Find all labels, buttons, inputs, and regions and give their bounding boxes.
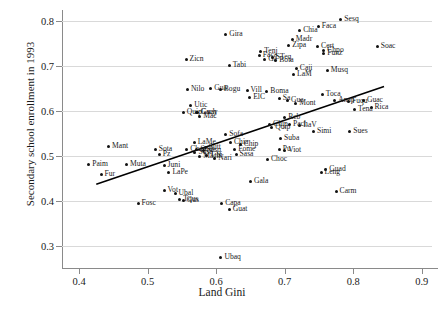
data-point-label: Mant [112, 142, 128, 150]
data-point [292, 73, 295, 76]
data-point-label: Chip [244, 140, 259, 148]
x-tick [79, 268, 80, 274]
data-point [316, 45, 319, 48]
data-point [317, 25, 320, 28]
data-point-label: Sues [353, 127, 367, 135]
scatter-plot-figure: Secondary school enrollment in 1993 Land… [0, 0, 444, 309]
data-point [326, 69, 329, 72]
data-point-label: Sutt [209, 143, 221, 151]
data-point [335, 190, 338, 193]
x-tick [353, 268, 354, 274]
data-point-label: Viot [288, 146, 301, 154]
data-point-label: ElC [253, 93, 265, 101]
data-point-label: Nari [218, 154, 232, 162]
x-tick-label: 0.8 [333, 276, 373, 287]
x-tick-label: 0.5 [128, 276, 168, 287]
data-point-label: Muta [130, 160, 146, 168]
data-point [278, 148, 281, 151]
data-point-label: Tena [358, 105, 373, 113]
data-point [185, 58, 188, 61]
x-tick-label: 0.9 [402, 276, 442, 287]
data-point [202, 149, 205, 152]
data-point [204, 146, 207, 149]
x-tick [285, 268, 286, 274]
data-point-label: Madr [296, 35, 312, 43]
data-point [100, 173, 103, 176]
data-point-label: Nilo [191, 85, 205, 93]
data-point-label: Gua [214, 84, 227, 92]
data-point-label: Mont [299, 99, 315, 107]
data-point [322, 52, 325, 55]
data-point-label: Suba [284, 134, 299, 142]
x-tick [216, 268, 217, 274]
x-axis-label: Land Gini [0, 286, 444, 298]
y-tick-label: 0.5 [24, 152, 54, 161]
data-point-label: Mac [203, 112, 217, 120]
data-point-label: Carm [340, 187, 357, 195]
data-point [239, 143, 242, 146]
x-tick-label: 0.4 [59, 276, 99, 287]
data-point-label: Sasa [240, 150, 254, 158]
x-tick [422, 268, 423, 274]
y-tick-label: 0.3 [24, 242, 54, 251]
data-point-label: Rica [375, 103, 389, 111]
x-tick-label: 0.6 [196, 276, 236, 287]
data-point [246, 89, 249, 92]
y-tick-label: 0.4 [24, 197, 54, 206]
data-point [321, 93, 324, 96]
data-point-label: Bota [279, 56, 293, 64]
data-point [347, 100, 350, 103]
data-point-label: Gira [229, 30, 243, 38]
data-point [266, 158, 269, 161]
data-point-label: Tabi [233, 61, 246, 69]
data-point-label: Zicn [190, 55, 204, 63]
data-point-label: Choc [271, 155, 287, 163]
y-tick-label: 0.6 [24, 107, 54, 116]
data-point-label: LaV [303, 121, 317, 129]
data-point-label: Leng [325, 168, 341, 176]
data-point-label: Guat [233, 205, 248, 213]
data-point [291, 38, 294, 41]
data-point [235, 153, 238, 156]
data-point [220, 202, 223, 205]
data-point-label: Musq [331, 66, 348, 74]
trend-line [62, 10, 432, 262]
data-point [228, 64, 231, 67]
data-point [278, 97, 281, 100]
data-point [186, 88, 189, 91]
data-point-label: Chia [303, 26, 317, 34]
data-point-label: Gala [254, 177, 268, 185]
data-point [174, 192, 177, 195]
data-point [154, 148, 157, 151]
data-point-label: Fur [105, 170, 116, 178]
data-point [182, 111, 185, 114]
data-point [268, 123, 271, 126]
data-point [198, 155, 201, 158]
data-point [163, 164, 166, 167]
data-point [137, 202, 140, 205]
y-tick-label: 0.7 [24, 62, 54, 71]
data-point-label: Ubaq [224, 253, 240, 261]
x-tick-label: 0.7 [265, 276, 305, 287]
y-tick-label: 0.8 [24, 17, 54, 26]
x-axis-line [62, 268, 438, 269]
data-point [286, 99, 289, 102]
data-point-label: LaM [297, 70, 312, 78]
data-point [294, 102, 297, 105]
data-point-label: Simi [317, 127, 331, 135]
data-point-label: Paim [92, 160, 108, 168]
data-point [185, 148, 188, 151]
data-point-label: Soac [381, 42, 396, 50]
data-point-label: Fosc [142, 199, 156, 207]
data-point-label: Faca [322, 22, 336, 30]
data-point-label: Funz [327, 49, 342, 57]
data-point [279, 137, 282, 140]
data-point-label: Sesq [344, 15, 358, 23]
data-point [376, 45, 379, 48]
x-tick [148, 268, 149, 274]
data-point-label: Pz [163, 150, 171, 158]
plot-area: 0.30.40.50.60.70.8 0.40.50.60.70.80.9 Pa… [62, 10, 432, 262]
data-point-label: Gus [187, 196, 199, 204]
data-point-label: LaPe [172, 168, 188, 176]
